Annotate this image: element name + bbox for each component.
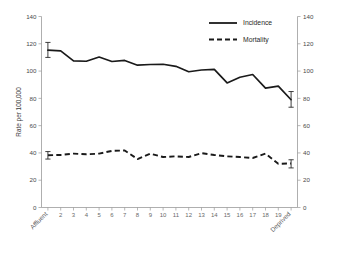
x-tick-label: 4: [85, 212, 89, 218]
y-tick-label-right: 60: [303, 122, 310, 129]
y-tick-label-left: 40: [30, 149, 37, 156]
x-axis-ticks: Affluent2345678910111213141516171819Depr…: [28, 208, 292, 235]
chart-figure: 140120100806040200 140120100806040200 Af…: [0, 0, 337, 255]
x-tick-label: 16: [237, 212, 244, 218]
y-axis-left-ticks: 140120100806040200: [26, 13, 41, 211]
legend-label-incidence: Incidence: [243, 19, 272, 26]
x-tick-label: 7: [123, 212, 127, 218]
x-tick-label: 14: [211, 212, 218, 218]
x-tick-label: 6: [110, 212, 114, 218]
y-axis-right-ticks: 140120100806040200: [298, 13, 314, 211]
x-tick-label: 2: [59, 212, 63, 218]
x-tick-label: 9: [149, 212, 153, 218]
chart-legend: IncidenceMortality: [209, 19, 272, 44]
y-tick-label-left: 100: [26, 67, 37, 74]
line-chart: 140120100806040200 140120100806040200 Af…: [0, 0, 337, 255]
x-tick-label: 18: [262, 212, 269, 218]
y-tick-label-left: 20: [30, 176, 37, 183]
x-tick-label: 3: [72, 212, 76, 218]
chart-series-group: [48, 50, 291, 164]
y-tick-label-right: 0: [303, 204, 307, 211]
y-tick-label-left: 60: [30, 122, 37, 129]
series-line-mortality: [48, 150, 291, 163]
y-tick-label-right: 40: [303, 149, 310, 156]
series-line-incidence: [48, 50, 291, 100]
x-tick-label: 17: [249, 212, 256, 218]
x-tick-label: 10: [160, 212, 167, 218]
y-tick-label-left: 140: [26, 13, 37, 20]
x-tick-label: 5: [97, 212, 101, 218]
x-tick-label: 8: [136, 212, 140, 218]
chart-axes: [42, 17, 298, 208]
y-tick-label-right: 100: [303, 67, 314, 74]
y-tick-label-left: 0: [33, 204, 37, 211]
y-axis-title: Rate per 100,000: [15, 87, 23, 137]
y-tick-label-right: 80: [303, 95, 310, 102]
y-tick-label-left: 80: [30, 95, 37, 102]
x-tick-label: 15: [224, 212, 231, 218]
x-tick-label: 12: [185, 212, 192, 218]
x-tick-label: 11: [173, 212, 180, 218]
y-axis-title-group: Rate per 100,000: [15, 87, 23, 137]
x-tick-label-endpoint: Affluent: [28, 210, 48, 230]
y-tick-label-right: 140: [303, 13, 314, 20]
y-tick-label-right: 120: [303, 40, 314, 47]
y-tick-label-right: 20: [303, 176, 310, 183]
y-tick-label-left: 120: [26, 40, 37, 47]
x-tick-label: 13: [198, 212, 205, 218]
legend-label-mortality: Mortality: [243, 36, 269, 44]
